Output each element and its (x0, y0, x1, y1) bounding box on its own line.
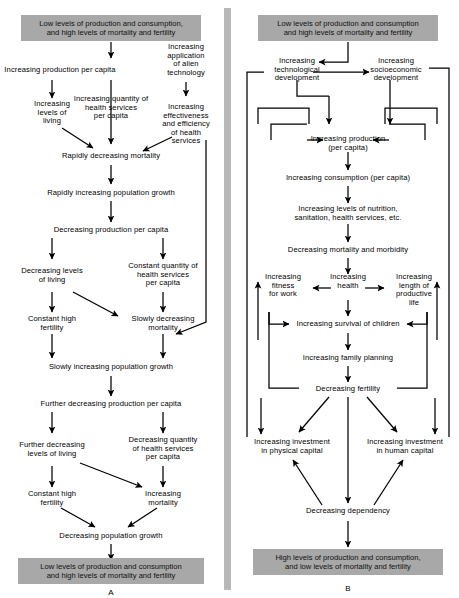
panel-b: Low levels of production and consumption… (237, 0, 459, 598)
panel-a-connectors (0, 0, 222, 598)
node-a8: Decreasing production per capita (36, 226, 186, 235)
node-b12: Decreasing fertility (302, 385, 394, 394)
node-a11: Constant high fertility (13, 315, 91, 332)
node-b1: Increasing technological development (262, 57, 332, 83)
node-a15: Further decreasing levels of living (3, 441, 101, 458)
node-b10: Increasing survival of children (287, 320, 409, 329)
node-a10: Constant quantity of health services per… (115, 262, 211, 288)
node-a1: Increasing production per capita (0, 66, 120, 75)
panel-a-bottom-band: Low levels of production and consumption… (18, 558, 204, 584)
node-b11: Increasing family planning (288, 354, 408, 363)
node-b15: Decreasing dependency (287, 507, 409, 516)
node-a14: Further decreasing production per capita (19, 400, 203, 409)
node-a9: Decreasing levels of living (4, 267, 100, 284)
node-a19: Decreasing population growth (31, 532, 191, 541)
node-b8: Increasing health (319, 273, 377, 290)
node-a5: Increasing effectiveness and efficiency … (154, 103, 218, 146)
node-b14: Increasing investment in human capital (354, 438, 456, 455)
figure-root: Low levels of production and consumption… (0, 0, 459, 598)
node-a6: Rapidly decreasing mortality (41, 152, 181, 161)
node-b2: Increasing socioeconomic development (360, 57, 432, 83)
panel-a-label: A (108, 588, 113, 597)
node-a17: Constant high fertility (13, 490, 91, 507)
node-b9: Increasing length of productive life (385, 273, 443, 307)
panel-b-top-band: Low levels of production and consumption… (258, 15, 438, 41)
node-b4: Increasing consumption (per capita) (268, 174, 428, 183)
panel-b-bottom-band: High levels of production and consumptio… (253, 549, 443, 575)
node-a16: Decreasing quantity of health services p… (113, 436, 213, 462)
panel-b-label: B (345, 584, 350, 593)
node-a4: Increasing levels of living (22, 100, 82, 126)
node-a13: Slowly increasing population growth (26, 363, 196, 372)
node-b6: Decreasing mortality and morbidity (266, 246, 430, 255)
panel-a-top-band: Low levels of production and consumption… (21, 15, 201, 41)
node-a7: Rapidly increasing population growth (31, 189, 191, 198)
node-b5: Increasing levels of nutrition, sanitati… (268, 205, 428, 222)
node-b13: Increasing investment in physical capita… (241, 438, 343, 455)
node-a12: Slowly decreasing mortality (119, 315, 207, 332)
node-b3: Increasing production (per capita) (300, 135, 396, 152)
node-a18: Increasing mortality (130, 490, 196, 507)
node-b7: Increasing fitness for work (253, 273, 313, 299)
panel-a: Low levels of production and consumption… (0, 0, 222, 598)
panel-divider (224, 8, 231, 590)
node-a3: Increasing application of alien technolo… (155, 43, 217, 77)
